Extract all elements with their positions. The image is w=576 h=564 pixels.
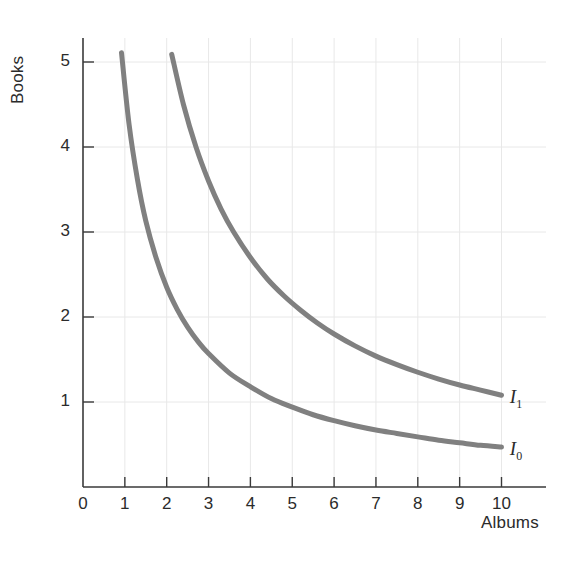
x-tick-label: 5 <box>272 494 312 514</box>
x-tick-label: 7 <box>356 494 396 514</box>
x-tick-label: 4 <box>230 494 270 514</box>
y-tick-label: 2 <box>48 306 70 326</box>
y-axis-ticks <box>83 62 94 402</box>
x-tick-label: 1 <box>105 494 145 514</box>
x-tick-label: 10 <box>482 494 522 514</box>
plot-area <box>0 0 576 564</box>
curve-label-I0: I0 <box>510 438 522 464</box>
x-tick-label: 0 <box>63 494 103 514</box>
indifference-curve-chart: Books Albums 012345678910 12345 I0I1 <box>0 0 576 564</box>
y-tick-label: 1 <box>48 391 70 411</box>
x-tick-label: 8 <box>398 494 438 514</box>
curve-I0 <box>122 53 502 447</box>
x-tick-label: 9 <box>440 494 480 514</box>
curve-label-subscript: 1 <box>516 397 522 411</box>
y-tick-label: 3 <box>48 221 70 241</box>
y-tick-label: 4 <box>48 136 70 156</box>
curve-label-I1: I1 <box>510 386 522 412</box>
curve-label-subscript: 0 <box>516 449 522 463</box>
x-tick-label: 2 <box>147 494 187 514</box>
y-axis-title: Books <box>8 56 28 104</box>
y-tick-label: 5 <box>48 51 70 71</box>
x-axis-title: Albums <box>481 513 539 533</box>
horizontal-gridlines <box>83 62 546 402</box>
data-series-group <box>122 53 502 447</box>
x-axis-ticks <box>125 477 502 487</box>
x-tick-label: 6 <box>314 494 354 514</box>
x-tick-label: 3 <box>189 494 229 514</box>
curve-I1 <box>172 54 502 395</box>
axis-lines <box>83 38 546 487</box>
